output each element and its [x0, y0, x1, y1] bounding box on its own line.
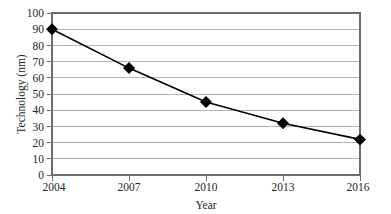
- ytick-label-10: 10: [33, 153, 45, 165]
- y-axis-title: Technology (nm): [15, 54, 28, 134]
- chart-figure: 100 90 80 70 60 50 40 30 20 10 0 2004 20…: [0, 0, 391, 214]
- ytick-label-50: 50: [33, 88, 45, 100]
- xtick-label-2004: 2004: [43, 181, 66, 193]
- ytick-label-40: 40: [33, 104, 45, 116]
- ytick-label-0: 0: [38, 169, 44, 181]
- ytick-label-100: 100: [27, 7, 45, 19]
- xtick-label-2010: 2010: [195, 181, 218, 193]
- xtick-label-2007: 2007: [118, 181, 141, 193]
- line-chart: 100 90 80 70 60 50 40 30 20 10 0 2004 20…: [0, 0, 391, 214]
- ytick-label-70: 70: [33, 56, 45, 68]
- ytick-label-90: 90: [33, 23, 45, 35]
- ytick-label-30: 30: [33, 121, 45, 133]
- ytick-label-60: 60: [33, 72, 45, 84]
- x-axis-title: Year: [195, 199, 216, 211]
- xtick-label-2016: 2016: [347, 181, 370, 193]
- xtick-label-2013: 2013: [272, 181, 295, 193]
- ytick-label-20: 20: [33, 137, 45, 149]
- ytick-label-80: 80: [33, 40, 45, 52]
